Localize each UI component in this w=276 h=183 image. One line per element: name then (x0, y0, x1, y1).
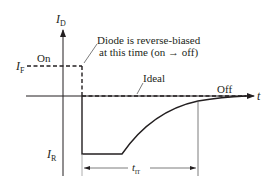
ideal-label: Ideal (143, 72, 165, 84)
diode-recovery-diagram: ID t IF IR On Off Ideal Diode is reverse… (0, 0, 276, 183)
diagram-svg: ID t IF IR On Off Ideal Diode is reverse… (0, 0, 276, 183)
callout-line-1: Diode is reverse-biased (97, 34, 201, 46)
x-axis-label: t (257, 89, 261, 103)
recovery-time-label: trr (132, 161, 141, 176)
callout-line-2: at this time (on → off) (99, 46, 198, 59)
callout-leader (84, 44, 97, 63)
on-state-label: On (37, 52, 51, 64)
forward-current-label: IF (15, 59, 25, 75)
ideal-leader (137, 83, 143, 94)
off-state-label: Off (217, 83, 232, 95)
reverse-current-label: IR (46, 147, 57, 163)
reverse-recovery-curve (82, 96, 246, 154)
y-axis-label: ID (55, 12, 66, 28)
